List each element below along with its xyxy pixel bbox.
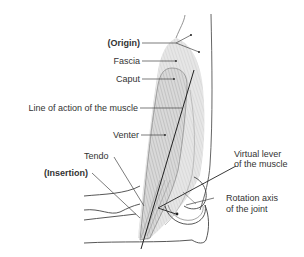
label-venter: Venter	[92, 130, 139, 140]
label-virtual-lever-1: Virtual lever	[234, 149, 281, 159]
label-line-of-action: Line of action of the muscle	[10, 103, 138, 113]
leader-insertion	[92, 173, 140, 218]
label-fascia: Fascia	[92, 56, 140, 66]
label-origin: (Origin)	[92, 38, 140, 48]
forearm-line-4	[84, 240, 192, 243]
label-virtual-lever-2: of the muscle	[234, 159, 288, 169]
label-rotation-axis-1: Rotation axis	[226, 193, 278, 203]
ulna-outline	[192, 205, 209, 243]
label-caput: Caput	[92, 74, 140, 84]
rotation-axis-point	[176, 213, 179, 216]
label-tendo: Tendo	[84, 151, 109, 161]
forearm-line-2	[84, 204, 140, 213]
forearm-line-3	[84, 214, 136, 220]
forearm-line-1	[84, 186, 140, 196]
label-rotation-axis-2: of the joint	[226, 204, 268, 214]
label-insertion: (Insertion)	[44, 168, 88, 178]
arm-outline-left	[176, 15, 185, 38]
leader-tendo	[114, 157, 144, 206]
muscle-diagram	[0, 0, 304, 257]
